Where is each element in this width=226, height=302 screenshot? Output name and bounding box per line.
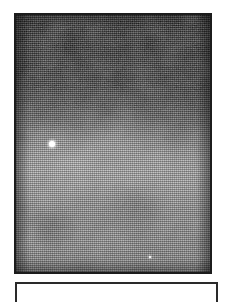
nebulosity-cloud-layer [16,15,210,272]
astronomical-plate-figure [14,13,212,274]
lower-framed-panel [15,282,218,302]
